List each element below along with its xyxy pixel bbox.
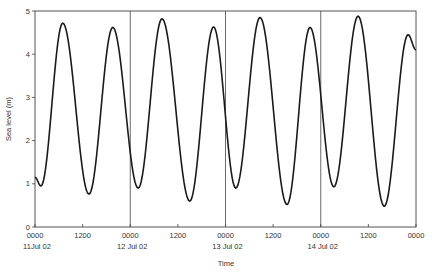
x-tick-time-label: 0000 [312, 231, 329, 240]
x-axis-title: Time [218, 259, 234, 268]
sea-level-chart: 012345 000011Jul 021200000012 Jul 021200… [0, 0, 432, 273]
x-tick-time-label: 0000 [122, 231, 139, 240]
x-tick-date-label: 11Jul 02 [23, 242, 51, 251]
y-tick-label: 5 [26, 7, 30, 16]
y-axis-title: Sea level (m) [4, 96, 13, 141]
y-axis-ticks: 012345 [26, 7, 35, 232]
x-tick-time-label: 1200 [265, 231, 282, 240]
x-tick-date-label: 14 Jul 02 [308, 242, 338, 251]
x-tick-time-label: 1200 [360, 231, 377, 240]
y-tick-label: 2 [26, 136, 30, 145]
x-tick-date-label: 12 Jul 02 [117, 242, 147, 251]
x-tick-time-label: 1200 [170, 231, 187, 240]
y-tick-label: 4 [26, 50, 30, 59]
x-tick-time-label: 0000 [217, 231, 234, 240]
x-axis-ticks: 000011Jul 021200000012 Jul 021200000013 … [23, 224, 424, 251]
x-tick-time-label: 0000 [27, 231, 44, 240]
y-tick-label: 1 [26, 179, 30, 188]
y-tick-label: 3 [26, 93, 30, 102]
x-tick-time-label: 0000 [408, 231, 425, 240]
x-tick-date-label: 13 Jul 02 [212, 242, 242, 251]
x-tick-time-label: 1200 [74, 231, 91, 240]
